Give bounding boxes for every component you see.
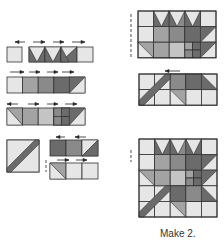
patch [23, 108, 39, 125]
patch [138, 11, 154, 27]
patch [185, 50, 193, 58]
patch [170, 155, 186, 171]
patch [139, 139, 155, 155]
patch [165, 69, 169, 72]
make-count-caption: Make 2. [160, 228, 196, 239]
patch [170, 170, 186, 186]
patch [66, 140, 82, 156]
quilt-diagram [0, 0, 224, 250]
patch [200, 11, 216, 27]
patch [194, 170, 202, 178]
patch [60, 40, 64, 43]
patch [73, 102, 77, 105]
patch [41, 40, 45, 43]
patch [170, 74, 186, 90]
patch [185, 42, 193, 50]
patch [186, 90, 202, 106]
patch [169, 27, 185, 43]
patch [186, 170, 194, 178]
patch [20, 70, 24, 73]
patch [83, 158, 87, 161]
patch [186, 178, 194, 186]
patch [62, 117, 70, 126]
patch [186, 186, 202, 202]
patch [65, 158, 69, 161]
patch [170, 186, 186, 202]
patch [201, 139, 217, 155]
patch [54, 117, 62, 126]
patch [62, 108, 70, 117]
patch [38, 108, 54, 125]
patch [201, 201, 217, 217]
patch [56, 135, 60, 138]
patch [77, 47, 93, 62]
patch [54, 77, 70, 93]
patch [7, 102, 11, 105]
patch [193, 42, 201, 50]
patch [36, 70, 40, 73]
patch [154, 42, 170, 58]
patch [155, 170, 171, 186]
patch [186, 155, 202, 171]
patch [193, 50, 201, 58]
patch [23, 77, 39, 93]
patch [81, 40, 85, 43]
patch [194, 178, 202, 186]
patch [66, 163, 82, 179]
patch [54, 70, 58, 73]
patch [75, 135, 79, 138]
patch [50, 140, 66, 156]
patch [186, 74, 202, 90]
patch [15, 40, 19, 43]
patch [82, 163, 98, 179]
patch [70, 70, 74, 73]
patch [7, 47, 22, 62]
patch [138, 27, 154, 43]
patch [7, 77, 23, 93]
patch [186, 201, 202, 217]
patch [54, 102, 58, 105]
patch [38, 77, 54, 93]
patch [154, 27, 170, 43]
patch [155, 155, 171, 171]
patch [139, 155, 155, 171]
patch [201, 90, 217, 106]
patch [169, 42, 185, 58]
patch [185, 27, 201, 43]
patch [35, 102, 39, 105]
